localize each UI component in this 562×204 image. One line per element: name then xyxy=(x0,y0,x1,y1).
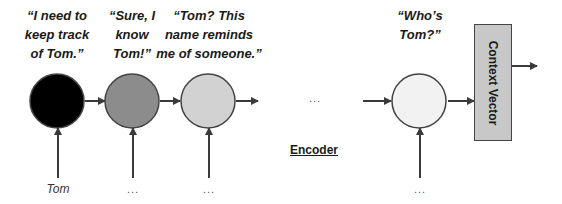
encoder-label: Encoder xyxy=(290,143,338,157)
context-vector-label: Context Vector xyxy=(486,40,500,125)
input-label-h3: ... xyxy=(194,183,224,195)
encoder-diagram: “I need to keep track of Tom.” “Sure, I … xyxy=(0,0,562,204)
hidden-state-h3 xyxy=(181,74,235,128)
input-label-h2: ... xyxy=(118,183,148,195)
hidden-state-h1 xyxy=(30,74,84,128)
input-label-hn: ... xyxy=(405,183,435,195)
input-label-h1: Tom xyxy=(38,182,78,196)
context-vector-box: Context Vector xyxy=(474,24,512,141)
hidden-state-hn xyxy=(392,74,446,128)
sequence-gap-ellipsis: ... xyxy=(300,92,330,104)
hidden-state-h2 xyxy=(105,74,159,128)
